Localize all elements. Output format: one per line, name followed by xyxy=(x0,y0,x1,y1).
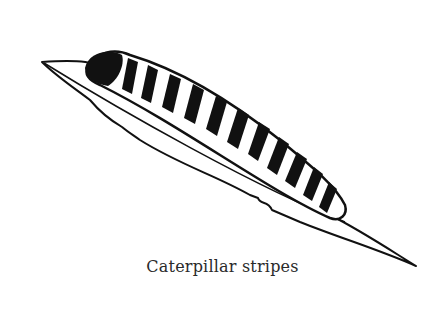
caterpillar-body xyxy=(85,52,346,220)
leaf-outline xyxy=(42,61,416,266)
illustration-canvas: Caterpillar stripes xyxy=(0,0,445,311)
caption: Caterpillar stripes xyxy=(0,257,445,276)
